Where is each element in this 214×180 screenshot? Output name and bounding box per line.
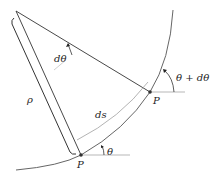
ds-label: ds	[95, 109, 107, 120]
ds-arc	[77, 82, 148, 140]
curve-path	[16, 10, 173, 170]
point-p-lower	[79, 153, 83, 157]
curvature-diagram: dθ ρ ds P P θ θ + dθ	[0, 0, 214, 180]
p-upper-label: P	[152, 95, 160, 106]
point-p-upper	[148, 90, 152, 94]
rho-label: ρ	[26, 94, 33, 105]
radius-line-to-lower-p	[16, 11, 81, 155]
theta-label: θ	[107, 146, 113, 157]
radius-line-to-upper-p	[16, 11, 150, 92]
theta-plus-dtheta-label: θ + dθ	[176, 72, 209, 83]
theta-dtheta-arc	[165, 71, 174, 92]
p-lower-label: P	[76, 159, 84, 170]
dtheta-label: dθ	[54, 53, 66, 64]
rho-bracket	[12, 18, 76, 154]
